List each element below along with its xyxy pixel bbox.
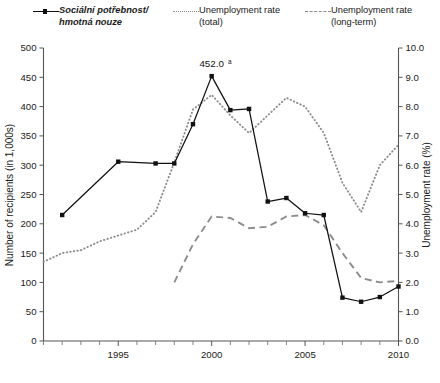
x-tick-label: 1995 xyxy=(108,349,129,360)
data-point-marker xyxy=(378,295,382,299)
series-unemployment-longterm-line xyxy=(174,215,398,282)
peak-annotation: 452.0a xyxy=(199,58,231,69)
data-point-marker xyxy=(60,213,64,217)
x-tick-label: 2010 xyxy=(388,349,409,360)
y-left-tick-label: 200 xyxy=(20,218,36,229)
data-point-marker xyxy=(266,199,270,203)
data-point-marker xyxy=(228,108,232,112)
y-right-tick-label: 7.0 xyxy=(406,130,419,141)
y-axis-left-title: Number of recipients (in 1,000s) xyxy=(4,124,15,266)
series-social-need-markers xyxy=(60,74,401,304)
y-left-tick-label: 100 xyxy=(20,277,36,288)
y-left-tick-label: 0 xyxy=(31,335,36,346)
data-point-marker xyxy=(303,211,307,215)
peak-annotation-superscript: a xyxy=(228,58,232,65)
y-right-tick-label: 10.0 xyxy=(406,42,425,53)
y-right-tick-label: 2.0 xyxy=(406,277,419,288)
y-right-tick-label: 8.0 xyxy=(406,101,419,112)
data-point-marker xyxy=(247,107,251,111)
y-axis-left: 050100150200250300350400450500 xyxy=(20,42,43,346)
peak-annotation-value: 452.0 xyxy=(199,58,224,69)
y-left-tick-label: 250 xyxy=(20,189,36,200)
x-axis: 1995200020052010 xyxy=(44,341,410,360)
data-point-marker xyxy=(116,159,120,163)
data-point-marker xyxy=(153,161,157,165)
x-tick-label: 2000 xyxy=(201,349,222,360)
plot-area: 050100150200250300350400450500 0.01.02.0… xyxy=(0,0,440,383)
data-point-marker xyxy=(172,161,176,165)
y-right-tick-label: 6.0 xyxy=(406,160,419,171)
data-point-marker xyxy=(359,300,363,304)
y-right-tick-label: 3.0 xyxy=(406,248,419,259)
y-left-tick-label: 400 xyxy=(20,101,36,112)
y-axis-right-title: Unemployment rate (%) xyxy=(421,142,432,248)
chart-figure: Sociální potřebnost/ hmotná nouze Unempl… xyxy=(0,0,440,383)
data-point-marker xyxy=(322,213,326,217)
data-point-marker xyxy=(191,122,195,126)
data-point-marker xyxy=(396,284,400,288)
y-left-tick-label: 450 xyxy=(20,72,36,83)
chart-svg: 050100150200250300350400450500 0.01.02.0… xyxy=(0,0,440,383)
y-right-tick-label: 1.0 xyxy=(406,306,419,317)
y-right-tick-label: 4.0 xyxy=(406,218,419,229)
y-right-tick-label: 5.0 xyxy=(406,189,419,200)
data-point-marker xyxy=(284,196,288,200)
data-point-marker xyxy=(340,295,344,299)
y-right-tick-label: 0.0 xyxy=(406,335,419,346)
y-left-tick-label: 300 xyxy=(20,160,36,171)
y-left-tick-label: 150 xyxy=(20,248,36,259)
data-point-marker xyxy=(209,74,213,78)
x-tick-label: 2005 xyxy=(294,349,315,360)
series-unemployment-total-line xyxy=(44,95,399,262)
y-left-tick-label: 350 xyxy=(20,130,36,141)
y-left-tick-label: 500 xyxy=(20,42,36,53)
y-left-tick-label: 50 xyxy=(26,306,37,317)
y-right-tick-label: 9.0 xyxy=(406,72,419,83)
